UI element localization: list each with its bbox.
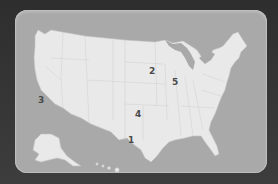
map-marker-3[interactable]: 3 — [38, 96, 44, 105]
map-marker-5[interactable]: 5 — [172, 78, 178, 87]
hawaii-islands — [96, 163, 119, 172]
alaska-shape — [33, 134, 81, 166]
map-marker-1[interactable]: 1 — [128, 136, 134, 145]
contiguous-us-shape — [34, 30, 247, 162]
map-marker-2[interactable]: 2 — [149, 67, 155, 76]
map-panel: 1 2 3 4 5 — [15, 10, 267, 173]
map-marker-4[interactable]: 4 — [135, 110, 141, 119]
us-map — [15, 10, 267, 173]
